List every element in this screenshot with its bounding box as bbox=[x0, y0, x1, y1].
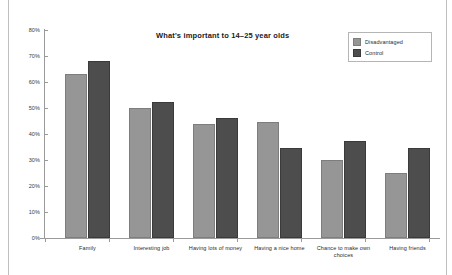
y-axis-tick-label-text: 0% bbox=[0, 235, 40, 241]
bar-disadvantaged[interactable] bbox=[193, 124, 215, 238]
x-axis-category-label: Chance to make own choices bbox=[313, 245, 375, 259]
x-axis-tick bbox=[173, 238, 174, 242]
x-axis-line bbox=[40, 238, 440, 239]
y-axis-tick-label: 60% bbox=[0, 79, 40, 85]
y-axis-tick-label-text: 60% bbox=[0, 79, 40, 85]
bar-disadvantaged[interactable] bbox=[65, 74, 87, 238]
bar-disadvantaged[interactable] bbox=[129, 108, 151, 238]
bar-control[interactable] bbox=[152, 102, 174, 239]
bar-disadvantaged[interactable] bbox=[257, 122, 279, 238]
y-axis-tick-label-text: 20% bbox=[0, 183, 40, 189]
x-axis-category-label: Interesting job bbox=[121, 245, 183, 252]
bar-disadvantaged[interactable] bbox=[321, 160, 343, 238]
x-axis-tick bbox=[365, 238, 366, 242]
y-axis-tick-label-text: 40% bbox=[0, 131, 40, 137]
bar-control[interactable] bbox=[280, 148, 302, 238]
bar-control[interactable] bbox=[216, 118, 238, 238]
y-axis-tick-label: 40% bbox=[0, 131, 40, 137]
bar-disadvantaged[interactable] bbox=[385, 173, 407, 238]
page-border-left bbox=[8, 0, 9, 275]
y-axis-tick bbox=[44, 56, 48, 57]
x-axis-tick bbox=[109, 238, 110, 242]
y-axis-tick-label-text: 30% bbox=[0, 157, 40, 163]
bar-group bbox=[321, 30, 366, 238]
x-axis-tick bbox=[45, 238, 46, 242]
y-axis-tick-label: 80% bbox=[0, 27, 40, 33]
y-axis-tick bbox=[44, 134, 48, 135]
x-axis-category-label: Having friends bbox=[377, 245, 439, 252]
bar-group bbox=[385, 30, 430, 238]
y-axis-tick-label: 70% bbox=[0, 53, 40, 59]
bar-control[interactable] bbox=[408, 148, 430, 238]
chart-page: What's important to 14–25 year olds Disa… bbox=[0, 0, 452, 275]
y-axis-tick-label-text: 70% bbox=[0, 53, 40, 59]
x-axis-tick bbox=[237, 238, 238, 242]
x-axis-tick bbox=[429, 238, 430, 242]
bar-group bbox=[129, 30, 174, 238]
bar-group bbox=[65, 30, 110, 238]
bar-control[interactable] bbox=[344, 141, 366, 239]
y-axis-tick bbox=[44, 82, 48, 83]
y-axis-tick bbox=[44, 108, 48, 109]
legend-label-control: Control bbox=[365, 50, 383, 56]
y-axis-tick-label: 0% bbox=[0, 235, 40, 241]
y-axis-tick bbox=[44, 186, 48, 187]
y-axis-tick-label-text: 50% bbox=[0, 105, 40, 111]
y-axis-tick-label: 10% bbox=[0, 209, 40, 215]
bar-control[interactable] bbox=[88, 61, 110, 238]
y-axis-tick-label-text: 80% bbox=[0, 27, 40, 33]
x-axis-category-label: Having a nice home bbox=[249, 245, 311, 252]
y-axis-tick-label: 30% bbox=[0, 157, 40, 163]
y-axis-tick-label: 20% bbox=[0, 183, 40, 189]
bar-group bbox=[193, 30, 238, 238]
y-axis-tick-label: 50% bbox=[0, 105, 40, 111]
y-axis-tick bbox=[44, 160, 48, 161]
y-axis-tick-label-text: 10% bbox=[0, 209, 40, 215]
x-axis-tick bbox=[301, 238, 302, 242]
page-border-right bbox=[446, 0, 447, 275]
x-axis-category-label: Family bbox=[57, 245, 119, 252]
x-axis-category-label: Having lots of money bbox=[185, 245, 247, 252]
y-axis-tick bbox=[44, 30, 48, 31]
y-axis-tick bbox=[44, 212, 48, 213]
bar-group bbox=[257, 30, 302, 238]
